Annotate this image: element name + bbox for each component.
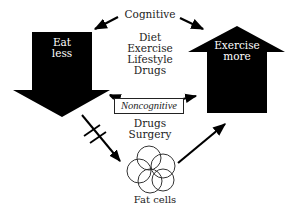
cognitive-to-exercise-more-connector xyxy=(180,18,203,29)
fat-cell xyxy=(137,146,161,170)
fat-cell xyxy=(138,169,162,193)
cognitive-methods-list: Diet Exercise Lifestyle Drugs xyxy=(118,32,182,76)
eat-less-label: Eat less xyxy=(32,37,92,59)
cognitive-method: Drugs xyxy=(118,65,182,76)
cognitive-label: Cognitive xyxy=(118,9,182,20)
fat-cells-label: Fat cells xyxy=(125,194,185,205)
noncognitive-box: Noncognitive xyxy=(114,98,184,114)
eat-less-label-line2: less xyxy=(32,48,92,59)
obesity-intervention-diagram: Cognitive Diet Exercise Lifestyle Drugs … xyxy=(0,0,300,220)
exercise-more-label-line2: more xyxy=(202,51,272,62)
fat-cell xyxy=(151,154,175,178)
eat-less-to-fat-cells-connector xyxy=(82,115,120,161)
cognitive-to-eat-less-connector xyxy=(95,17,118,29)
exercise-more-label: Exercise more xyxy=(202,40,272,62)
fat-cell xyxy=(127,159,151,183)
fat-cells-cluster xyxy=(127,146,175,193)
noncognitive-methods-list: Drugs Surgery xyxy=(118,118,182,140)
fat-cell xyxy=(152,169,174,191)
noncognitive-method: Surgery xyxy=(118,129,182,140)
fat-cells-to-exercise-more-connector xyxy=(178,124,225,163)
